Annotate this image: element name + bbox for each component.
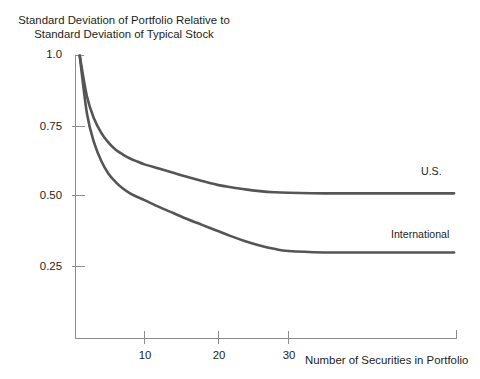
x-tick-marks bbox=[145, 331, 289, 344]
chart-figure: Standard Deviation of Portfolio Relative… bbox=[0, 0, 480, 379]
y-tick-label-2: 0.75 bbox=[20, 120, 62, 134]
y-tick-label-4: 0.25 bbox=[20, 260, 62, 274]
y-tick-label-1: 1.0 bbox=[20, 48, 62, 62]
data-series-group bbox=[80, 56, 454, 253]
y-tick-marks bbox=[72, 127, 85, 267]
curve-international bbox=[80, 56, 454, 253]
series-label-us: U.S. bbox=[421, 165, 442, 178]
axes bbox=[76, 55, 458, 339]
y-tick-label-3: 0.50 bbox=[20, 189, 62, 203]
x-tick-label-10: 10 bbox=[125, 349, 165, 363]
x-tick-label-20: 20 bbox=[199, 349, 239, 363]
series-label-international: International bbox=[391, 228, 449, 241]
x-axis-title: Number of Securities in Portfolio bbox=[305, 354, 468, 368]
plot-area bbox=[0, 0, 480, 379]
x-tick-label-30: 30 bbox=[269, 349, 309, 363]
curve-us bbox=[80, 56, 454, 194]
